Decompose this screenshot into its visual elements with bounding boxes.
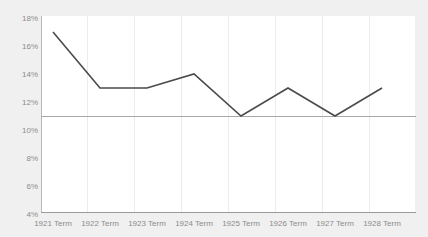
line-chart: 18% 16% 14% 12% 10% 8% 6% 4% 1921 Term 1… — [0, 0, 428, 237]
x-tick-label: 1928 Term — [352, 219, 412, 229]
series-line — [53, 32, 382, 116]
series-line-layer — [0, 0, 428, 237]
